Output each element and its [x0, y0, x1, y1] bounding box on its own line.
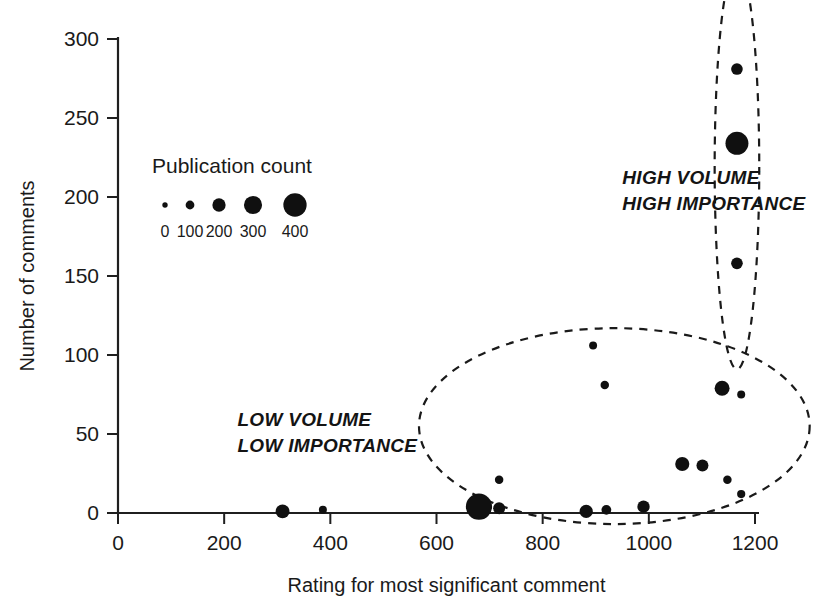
- data-point-0: [276, 504, 290, 518]
- data-point-6: [589, 342, 597, 350]
- x-tick-label-200: 200: [207, 531, 242, 554]
- cluster-label-low-volume-low-importance-line-1: LOW IMPORTANCE: [237, 435, 418, 456]
- data-point-12: [715, 381, 730, 396]
- cluster-annotations-group: HIGH VOLUMEHIGH IMPORTANCELOW VOLUMELOW …: [237, 167, 806, 456]
- data-point-13: [723, 476, 731, 484]
- data-point-11: [696, 460, 708, 472]
- legend-title: Publication count: [152, 154, 312, 177]
- data-point-9: [637, 501, 649, 513]
- y-tick-label-50: 50: [76, 422, 99, 445]
- data-point-16: [731, 63, 743, 75]
- cluster-label-low-volume-low-importance-line-0: LOW VOLUME: [237, 409, 372, 430]
- x-tick-label-800: 800: [525, 531, 560, 554]
- data-point-15: [737, 490, 745, 498]
- data-point-2: [466, 494, 492, 520]
- y-tick-label-0: 0: [87, 501, 99, 524]
- legend-bubble-400: [283, 193, 306, 216]
- data-point-18: [731, 258, 743, 270]
- legend-bubble-label-400: 400: [282, 223, 309, 240]
- data-point-3: [493, 502, 505, 514]
- scatter-chart-figure: 020040060080010001200050100150200250300 …: [0, 0, 821, 606]
- cluster-outline-group: [419, 0, 810, 524]
- axis-titles-group: Rating for most significant commentNumbe…: [16, 180, 606, 596]
- legend-bubble-300: [244, 196, 262, 214]
- chart-canvas: 020040060080010001200050100150200250300 …: [0, 0, 821, 606]
- data-point-7: [601, 381, 609, 389]
- legend-bubble-label-100: 100: [177, 223, 204, 240]
- legend-bubble-label-0: 0: [161, 223, 170, 240]
- x-axis-title: Rating for most significant comment: [288, 574, 606, 596]
- x-tick-label-600: 600: [419, 531, 454, 554]
- y-tick-label-300: 300: [64, 27, 99, 50]
- data-point-10: [675, 457, 689, 471]
- size-legend: Publication count0100200300400: [152, 154, 312, 240]
- x-tick-label-1000: 1000: [625, 531, 672, 554]
- legend-bubble-0: [162, 202, 167, 207]
- data-point-14: [737, 391, 745, 399]
- legend-bubble-200: [212, 198, 225, 211]
- axes-group: 020040060080010001200050100150200250300: [64, 27, 778, 554]
- cluster-label-high-volume-high-importance-line-1: HIGH IMPORTANCE: [622, 193, 806, 214]
- y-tick-label-150: 150: [64, 264, 99, 287]
- data-point-8: [601, 505, 611, 515]
- y-axis-title: Number of comments: [16, 180, 38, 371]
- x-tick-label-0: 0: [112, 531, 124, 554]
- legend-bubble-100: [186, 201, 195, 210]
- data-point-17: [725, 132, 748, 155]
- y-tick-label-250: 250: [64, 106, 99, 129]
- x-tick-label-400: 400: [313, 531, 348, 554]
- y-tick-label-200: 200: [64, 185, 99, 208]
- data-point-4: [495, 476, 503, 484]
- x-tick-label-1200: 1200: [732, 531, 779, 554]
- legend-bubble-label-300: 300: [240, 223, 267, 240]
- data-point-1: [319, 506, 327, 514]
- legend-bubble-label-200: 200: [206, 223, 233, 240]
- cluster-label-high-volume-high-importance-line-0: HIGH VOLUME: [622, 167, 760, 188]
- data-point-5: [580, 505, 593, 518]
- y-tick-label-100: 100: [64, 343, 99, 366]
